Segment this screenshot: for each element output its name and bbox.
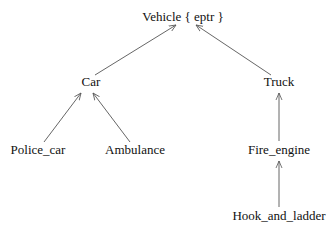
node-hook-and-ladder: Hook_and_ladder bbox=[232, 208, 325, 224]
class-hierarchy-diagram: Vehicle { eptr } Car Truck Police_car Am… bbox=[0, 0, 334, 230]
edge-police_car-to-car bbox=[44, 93, 81, 142]
node-fire-engine: Fire_engine bbox=[248, 142, 310, 158]
node-police-car: Police_car bbox=[11, 142, 66, 158]
node-car: Car bbox=[82, 74, 101, 90]
inheritance-edges bbox=[0, 0, 334, 230]
node-truck: Truck bbox=[264, 74, 295, 90]
edge-ambulance-to-car bbox=[93, 93, 130, 142]
edge-car-to-vehicle bbox=[95, 25, 176, 75]
node-ambulance: Ambulance bbox=[105, 142, 165, 158]
node-vehicle: Vehicle { eptr } bbox=[142, 9, 223, 25]
edge-truck-to-vehicle bbox=[196, 25, 271, 75]
